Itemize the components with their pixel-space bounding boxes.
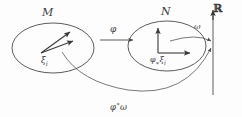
label-manifold-m: M	[42, 7, 53, 18]
tangent-vector-2	[41, 41, 73, 53]
label-pullback-phi-star-omega: φ∗ω	[110, 101, 127, 111]
label-real-line: ℝ	[213, 3, 222, 14]
label-form-omega: ω	[194, 23, 201, 31]
math-diagram: M ξi φ N φ∗ξi ω ℝ φ∗ω	[0, 0, 242, 117]
pullback-arrow	[62, 48, 211, 91]
label-manifold-n: N	[161, 6, 171, 17]
label-pushforward-xi: φ∗ξi	[150, 56, 166, 66]
diagram-canvas	[0, 0, 242, 117]
xi-subscript: i	[46, 60, 48, 67]
pushforward-xi-subscript: i	[164, 60, 166, 66]
label-tangent-vector-xi: ξi	[41, 56, 48, 67]
label-map-phi: φ	[110, 25, 116, 34]
tangent-vector-1	[41, 32, 70, 53]
pullback-omega: ω	[120, 102, 127, 112]
